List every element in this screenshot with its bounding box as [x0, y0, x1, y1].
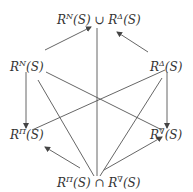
- node-text: R: [10, 60, 19, 74]
- node-text: R: [150, 60, 159, 74]
- node-right-upper: RΔ(S): [150, 57, 182, 74]
- node-text: (S): [165, 60, 183, 74]
- diagram-edges: [0, 0, 193, 192]
- edge-left-upper-to-right-lower: [46, 72, 162, 130]
- node-text: R: [57, 176, 66, 190]
- node-text: (S) ∪ R: [73, 13, 117, 27]
- node-text: R: [10, 128, 19, 142]
- node-left-lower: RΠ(S): [10, 125, 44, 142]
- node-text: (S): [123, 13, 141, 27]
- edge-right-upper-to-left-lower: [32, 70, 165, 130]
- node-text: (S): [26, 60, 44, 74]
- superscript: N: [66, 12, 73, 21]
- node-left-upper: RN(S): [10, 57, 44, 74]
- edge-left-upper-to-top: [45, 27, 91, 50]
- node-text: (S): [26, 128, 44, 142]
- superscript: N: [19, 59, 26, 68]
- edge-bottom-to-left-lower: [45, 147, 80, 168]
- superscript: Π: [19, 127, 26, 136]
- node-right-lower: R∇(S): [150, 125, 182, 142]
- node-text: (S) ∩ R: [73, 176, 117, 190]
- node-text: R: [57, 13, 66, 27]
- node-text: (S): [123, 176, 141, 190]
- node-top-union: RN(S) ∪ RΔ(S): [57, 10, 141, 27]
- node-bottom-intersection: RΠ(S) ∩ R∇(S): [57, 173, 141, 190]
- node-text: (S): [165, 128, 183, 142]
- edge-left-upper-to-bottom: [38, 80, 94, 176]
- node-text: R: [150, 128, 159, 142]
- superscript: Π: [66, 175, 73, 184]
- edge-right-upper-to-top: [117, 32, 148, 52]
